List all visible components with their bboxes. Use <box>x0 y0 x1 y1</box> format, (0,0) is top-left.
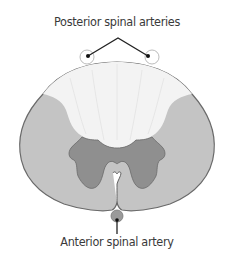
posterior-spinal-arteries-label: Posterior spinal arteries <box>0 14 234 29</box>
anterior-spinal-artery-label: Anterior spinal artery <box>0 234 234 249</box>
posterior-leader-dot-right <box>146 54 150 58</box>
posterior-leader-dot-left <box>86 54 90 58</box>
anterior-leader-dot <box>115 218 119 222</box>
spinal-cord-diagram <box>0 0 234 256</box>
posterior-leader-line <box>88 38 148 56</box>
